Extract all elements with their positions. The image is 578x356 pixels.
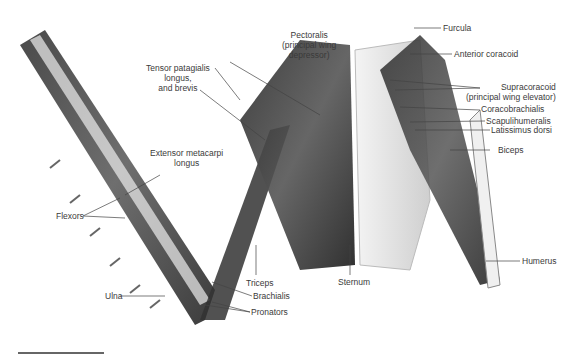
- label-ulna: Ulna: [105, 291, 122, 301]
- label-line: Tensor patagialis: [146, 63, 210, 73]
- label-brachialis: Brachialis: [253, 291, 290, 301]
- label-triceps: Triceps: [246, 278, 274, 288]
- label-line: Pectoralis: [282, 30, 336, 40]
- label-line: depressor): [282, 50, 336, 60]
- wing-anatomy-figure: Pectoralis (principal wing depressor) Te…: [0, 0, 578, 356]
- label-line: and brevis: [146, 83, 210, 93]
- label-supracoracoid: Supracoracoid (principal wing elevator): [466, 82, 556, 102]
- label-line: (principal wing: [282, 40, 336, 50]
- label-flexors: Flexors: [56, 211, 84, 221]
- label-pronators: Pronators: [251, 307, 288, 317]
- label-latissimus-dorsi: Latissimus dorsi: [491, 125, 552, 135]
- label-extensor-metacarpi: Extensor metacarpi longus: [150, 148, 223, 168]
- label-line: longus,: [146, 73, 210, 83]
- label-humerus: Humerus: [522, 256, 556, 266]
- label-sternum: Sternum: [338, 277, 370, 287]
- label-tensor-patagialis: Tensor patagialis longus, and brevis: [146, 63, 210, 93]
- label-furcula: Furcula: [443, 23, 471, 33]
- label-line: longus: [150, 158, 223, 168]
- label-pectoralis: Pectoralis (principal wing depressor): [282, 30, 336, 60]
- label-anterior-coracoid: Anterior coracoid: [454, 49, 518, 59]
- label-line: Extensor metacarpi: [150, 148, 223, 158]
- label-coracobrachialis: Coracobrachialis: [481, 104, 544, 114]
- label-line: Supracoracoid: [466, 82, 556, 92]
- label-line: (principal wing elevator): [466, 92, 556, 102]
- label-biceps: Biceps: [498, 145, 524, 155]
